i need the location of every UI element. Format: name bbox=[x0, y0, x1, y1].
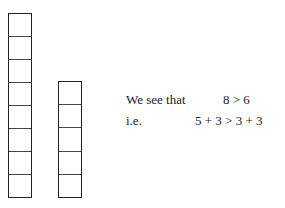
block-cell bbox=[9, 152, 31, 175]
block-cell bbox=[59, 152, 81, 175]
block-cell bbox=[9, 106, 31, 129]
block-cell bbox=[9, 60, 31, 83]
block-cell bbox=[9, 37, 31, 60]
block-cell bbox=[9, 14, 31, 37]
line1-label: We see that bbox=[126, 92, 186, 108]
line2-expression: 5 + 3 > 3 + 3 bbox=[195, 113, 263, 129]
block-cell bbox=[59, 82, 81, 105]
line1-expression: 8 > 6 bbox=[223, 92, 250, 108]
line2-label: i.e. bbox=[126, 113, 142, 129]
block-cell bbox=[9, 83, 31, 106]
block-cell bbox=[59, 175, 81, 197]
left-block-stack bbox=[8, 13, 32, 198]
block-cell bbox=[59, 128, 81, 151]
block-cell bbox=[59, 105, 81, 128]
block-cell bbox=[9, 129, 31, 152]
right-block-stack bbox=[58, 81, 82, 198]
block-cell bbox=[9, 175, 31, 197]
